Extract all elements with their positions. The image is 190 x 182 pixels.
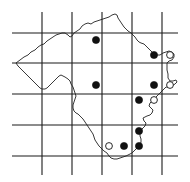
open-record-marker [167, 52, 174, 59]
open-record-marker [167, 82, 174, 89]
filled-record-marker [150, 81, 157, 88]
filled-record-marker [135, 96, 142, 103]
filled-record-marker [120, 142, 127, 149]
filled-record-marker [92, 36, 99, 43]
filled-record-marker [92, 81, 99, 88]
open-record-marker [151, 97, 158, 104]
distribution-map [0, 0, 190, 182]
open-record-marker [106, 143, 113, 150]
filled-record-marker [150, 51, 157, 58]
filled-record-marker [135, 127, 142, 134]
filled-record-marker [135, 142, 142, 149]
